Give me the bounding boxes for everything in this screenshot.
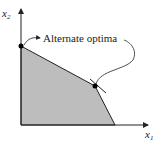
y-axis-label: x2 — [1, 7, 11, 21]
annotation-label: Alternate optima — [43, 32, 117, 44]
feasible-region — [21, 46, 115, 125]
optimum-point-2 — [93, 84, 98, 89]
optimum-point-1 — [19, 44, 24, 49]
lp-diagram: Alternate optima x2 x1 — [0, 0, 162, 146]
annotation-arrow-right — [96, 40, 135, 84]
x-axis-label: x1 — [144, 128, 153, 142]
annotation-arrow-left — [24, 38, 40, 45]
